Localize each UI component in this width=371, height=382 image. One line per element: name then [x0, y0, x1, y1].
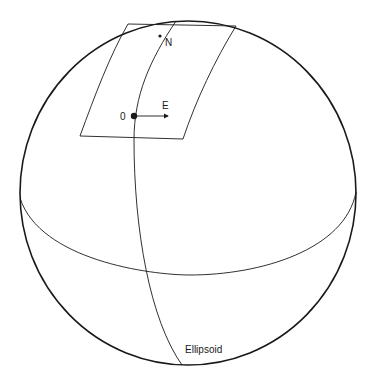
north-arrow-tip [158, 34, 161, 37]
equator [20, 192, 356, 275]
meridian [134, 21, 182, 365]
ellipsoid-label: Ellipsoid [185, 344, 222, 355]
ellipsoid-diagram: N E 0 Ellipsoid [0, 0, 371, 382]
ellipsoid-outline [20, 21, 356, 365]
origin-point [131, 113, 137, 119]
east-label: E [162, 100, 169, 111]
tangent-plane [80, 24, 236, 139]
north-label: N [165, 37, 172, 48]
origin-label: 0 [120, 111, 126, 122]
